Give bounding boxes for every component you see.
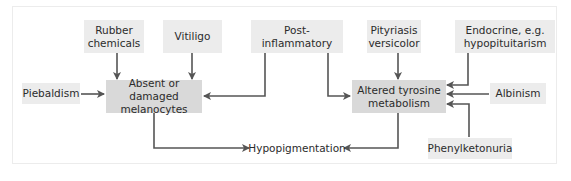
node-altered-tyrosine-metabolism: Altered tyrosinemetabolism (352, 80, 446, 113)
node-label: hypopituitarism (464, 37, 547, 50)
arrow-absent-to-hypo (154, 113, 249, 148)
node-label: versicolor (368, 37, 419, 50)
node-label: Altered tyrosine (357, 84, 441, 97)
node-label: chemicals (88, 37, 141, 50)
node-label: Vitiligo (175, 30, 211, 43)
arrow-postinfl-to-absent (204, 53, 265, 96)
node-label: metabolism (357, 97, 441, 110)
node-pityriasis-versicolor: Pityriasisversicolor (367, 20, 421, 53)
arrow-pku-to-altered (447, 104, 469, 137)
arrow-postinfl-to-altered (328, 53, 350, 96)
node-label: Hypopigmentation (248, 142, 345, 155)
arrow-altered-to-hypo (344, 113, 398, 148)
node-label: Absent or damaged (106, 77, 202, 103)
node-albinism: Albinism (490, 83, 546, 104)
node-hypopigmentation: Hypopigmentation (251, 138, 343, 159)
node-label: Endocrine, e.g. (464, 24, 547, 37)
node-label: Phenylketonuria (428, 142, 513, 155)
node-phenylketonuria: Phenylketonuria (428, 138, 512, 159)
node-vitiligo: Vitiligo (163, 20, 222, 53)
node-rubber-chemicals: Rubberchemicals (84, 20, 144, 53)
node-label: melanocytes (106, 103, 202, 116)
node-label: Post-inflammatory (251, 24, 343, 50)
node-post-inflammatory: Post-inflammatory (251, 20, 343, 53)
node-label: Rubber (88, 24, 141, 37)
arrow-endocrine-to-altered (447, 53, 468, 85)
node-endocrine: Endocrine, e.g.hypopituitarism (455, 20, 555, 53)
node-label: Pityriasis (368, 24, 419, 37)
node-piebaldism: Piebaldism (22, 83, 80, 104)
node-label: Piebaldism (23, 87, 80, 100)
node-absent-damaged-melanocytes: Absent or damagedmelanocytes (106, 80, 202, 113)
node-label: Albinism (496, 87, 541, 100)
